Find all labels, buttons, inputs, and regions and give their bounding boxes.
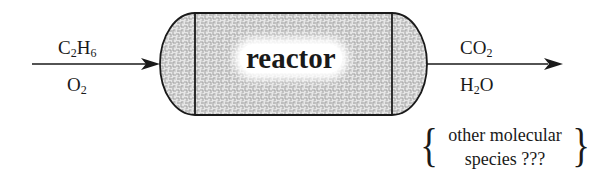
output-co2-label: CO2 — [460, 38, 492, 59]
output-arrow — [427, 58, 563, 70]
other-species-group: { other molecular species ??? } — [420, 123, 590, 173]
input-oxygen-label: O2 — [67, 75, 87, 96]
input-ethane-label: C2H6 — [58, 38, 96, 59]
other-species-line1: other molecular — [440, 124, 570, 146]
output-water-label: H2O — [460, 75, 493, 96]
right-brace: } — [572, 123, 590, 169]
left-brace: { — [420, 123, 438, 169]
other-species-line2: species ??? — [440, 148, 570, 170]
reactor-label: reactor — [240, 44, 342, 73]
